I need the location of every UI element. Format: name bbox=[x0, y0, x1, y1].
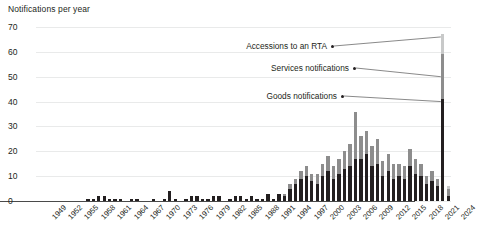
bar-segment bbox=[419, 176, 422, 201]
y-tick-label-70: 70 bbox=[8, 22, 38, 32]
bar-segment bbox=[397, 176, 400, 201]
x-tick-label-1982: 1982 bbox=[230, 203, 248, 221]
bar-segment bbox=[359, 159, 362, 201]
x-tick-label-1976: 1976 bbox=[197, 203, 215, 221]
x-tick-label-1994: 1994 bbox=[295, 203, 313, 221]
bar-segment bbox=[403, 166, 406, 178]
x-tick-label-1964: 1964 bbox=[132, 203, 150, 221]
bar-column-2004 bbox=[337, 159, 340, 201]
x-tick-label-1991: 1991 bbox=[279, 203, 297, 221]
bar-column-2019 bbox=[419, 164, 422, 201]
bar-segment bbox=[359, 136, 362, 158]
bar-segment bbox=[365, 154, 368, 201]
bar-column-2012 bbox=[381, 161, 384, 201]
y-tick-label-10: 10 bbox=[8, 171, 38, 181]
x-tick-label-1979: 1979 bbox=[213, 203, 231, 221]
bar-segment bbox=[370, 146, 373, 166]
annotation-dot bbox=[341, 95, 344, 98]
x-tick-label-2021: 2021 bbox=[443, 203, 461, 221]
bar-segment bbox=[408, 149, 411, 166]
bar-segment bbox=[441, 54, 444, 99]
bar-segment bbox=[321, 164, 324, 176]
bar-column-2008 bbox=[359, 136, 362, 201]
bar-segment bbox=[425, 184, 428, 201]
bar-segment bbox=[288, 189, 291, 201]
bar-segment bbox=[294, 184, 297, 201]
bar-segment bbox=[403, 179, 406, 201]
bar-segment bbox=[387, 171, 390, 201]
bar-segment bbox=[348, 166, 351, 201]
annotation-dot bbox=[353, 67, 356, 70]
bar-segment bbox=[168, 191, 171, 201]
bar-column-2014 bbox=[392, 164, 395, 201]
bar-column-2021 bbox=[430, 171, 433, 201]
bar-segment bbox=[441, 34, 444, 54]
x-tick-label-2006: 2006 bbox=[361, 203, 379, 221]
bar-segment bbox=[414, 159, 417, 174]
bar-column-2011 bbox=[376, 139, 379, 201]
annotation-label-goods-notifications: Goods notifications bbox=[0, 91, 337, 101]
x-axis-labels: 1949195219551958196119641967197019731976… bbox=[36, 203, 451, 247]
plot-area bbox=[36, 27, 451, 201]
bar-column-2020 bbox=[425, 176, 428, 201]
bar-segment bbox=[419, 164, 422, 176]
bar-segment bbox=[316, 174, 319, 184]
x-tick-label-2009: 2009 bbox=[377, 203, 395, 221]
bar-segment bbox=[425, 176, 428, 183]
annotation-label-accessions-to-an-rta: Accessions to an RTA bbox=[0, 41, 327, 51]
x-tick-label-1949: 1949 bbox=[50, 203, 68, 221]
y-tick-label-0: 0 bbox=[8, 196, 38, 206]
annotation-dot bbox=[331, 45, 334, 48]
bar-column-1973 bbox=[168, 191, 171, 201]
bar-segment bbox=[354, 112, 357, 159]
x-tick-label-1952: 1952 bbox=[66, 203, 84, 221]
bar-segment bbox=[321, 176, 324, 201]
bar-column-2006 bbox=[348, 144, 351, 201]
bar-segment bbox=[326, 156, 329, 171]
bar-segment bbox=[337, 174, 340, 201]
y-tick-label-30: 30 bbox=[8, 121, 38, 131]
bar-segment bbox=[430, 171, 433, 181]
x-tick-label-2003: 2003 bbox=[345, 203, 363, 221]
y-tick-label-50: 50 bbox=[8, 72, 38, 82]
bar-segment bbox=[430, 181, 433, 201]
x-tick-label-1961: 1961 bbox=[115, 203, 133, 221]
bar-column-2003 bbox=[332, 166, 335, 201]
bar-segment bbox=[365, 131, 368, 153]
bar-segment bbox=[441, 99, 444, 201]
x-tick-label-2012: 2012 bbox=[394, 203, 412, 221]
bar-segment bbox=[326, 171, 329, 201]
annotation-label-services-notifications: Services notifications bbox=[0, 63, 349, 73]
bar-column-1998 bbox=[305, 166, 308, 201]
bar-column-2005 bbox=[343, 151, 346, 201]
x-tick-label-1985: 1985 bbox=[246, 203, 264, 221]
bar-segment bbox=[376, 139, 379, 164]
bar-series-group bbox=[36, 27, 451, 201]
bar-segment bbox=[376, 164, 379, 201]
bar-column-2022 bbox=[436, 179, 439, 201]
x-tick-label-2018: 2018 bbox=[426, 203, 444, 221]
x-tick-label-1970: 1970 bbox=[164, 203, 182, 221]
x-tick-label-2015: 2015 bbox=[410, 203, 428, 221]
bar-column-2024 bbox=[447, 186, 450, 201]
bar-segment bbox=[408, 166, 411, 201]
x-tick-label-1988: 1988 bbox=[263, 203, 281, 221]
bar-segment bbox=[436, 179, 439, 186]
bar-segment bbox=[381, 176, 384, 201]
bar-segment bbox=[414, 174, 417, 201]
y-axis-title: Notifications per year bbox=[8, 4, 90, 14]
bar-segment bbox=[305, 166, 308, 176]
bar-column-2023 bbox=[441, 34, 444, 201]
bar-segment bbox=[337, 159, 340, 174]
bar-column-2018 bbox=[414, 159, 417, 201]
bar-segment bbox=[436, 186, 439, 201]
bar-column-2015 bbox=[397, 164, 400, 201]
bar-segment bbox=[447, 189, 450, 196]
bar-segment bbox=[343, 151, 346, 168]
bar-column-2013 bbox=[387, 154, 390, 201]
bar-column-2017 bbox=[408, 149, 411, 201]
x-tick-label-1997: 1997 bbox=[312, 203, 330, 221]
x-tick-label-1958: 1958 bbox=[99, 203, 117, 221]
bar-segment bbox=[310, 174, 313, 181]
